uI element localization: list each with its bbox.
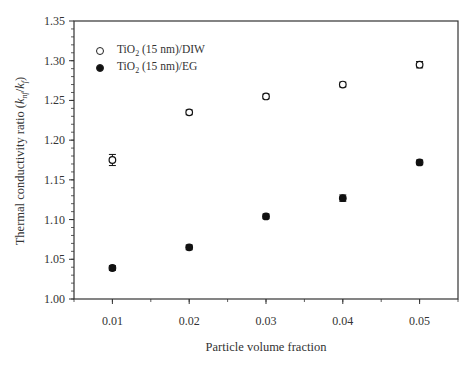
data-point-diw	[109, 157, 116, 164]
x-tick-label: 0.03	[256, 314, 277, 328]
x-axis-label: Particle volume fraction	[206, 340, 327, 355]
y-tick-label: 1.10	[44, 213, 65, 227]
y-tick-label: 1.25	[44, 93, 65, 107]
legend-item-diw: TiO2 (15 nm)/DIW	[96, 42, 205, 59]
data-point-eg	[263, 213, 270, 220]
data-point-diw	[340, 81, 347, 88]
y-axis-label: Thermal conductivity ratio (knf/kf)	[13, 77, 30, 246]
x-tick-label: 0.02	[179, 314, 200, 328]
legend-item-eg: TiO2 (15 nm)/EG	[96, 59, 205, 76]
open-circle-marker-icon	[96, 47, 104, 55]
filled-circle-marker-icon	[96, 64, 104, 72]
y-tick-label: 1.00	[44, 292, 65, 306]
data-point-diw	[416, 61, 423, 68]
data-point-eg	[416, 159, 423, 166]
x-tick-label: 0.05	[409, 314, 430, 328]
x-tick-label: 0.04	[332, 314, 353, 328]
x-tick-label: 0.01	[102, 314, 123, 328]
data-point-eg	[340, 195, 347, 202]
data-point-eg	[186, 244, 193, 251]
y-tick-label: 1.30	[44, 54, 65, 68]
y-tick-label: 1.15	[44, 173, 65, 187]
data-point-diw	[263, 93, 270, 100]
legend-label-diw: TiO2 (15 nm)/DIW	[117, 43, 205, 58]
legend-label-eg: TiO2 (15 nm)/EG	[117, 60, 197, 75]
data-point-diw	[186, 109, 193, 116]
plot-area: 1.001.051.101.151.201.251.301.350.010.02…	[0, 0, 471, 368]
y-tick-label: 1.35	[44, 14, 65, 28]
data-point-eg	[109, 265, 116, 272]
y-tick-label: 1.20	[44, 133, 65, 147]
y-tick-label: 1.05	[44, 252, 65, 266]
legend: TiO2 (15 nm)/DIW TiO2 (15 nm)/EG	[96, 42, 205, 76]
